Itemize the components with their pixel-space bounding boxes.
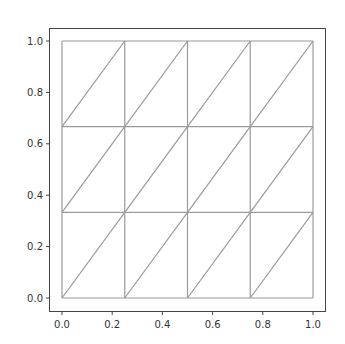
y-tick-label: 0.4: [27, 190, 43, 201]
y-axis-ticks: 0.00.20.40.60.81.0: [27, 36, 49, 304]
mesh-edge-diagonal: [250, 41, 313, 127]
y-tick-label: 0.6: [27, 138, 43, 149]
triangle-mesh: [62, 41, 313, 298]
mesh-edge-diagonal: [125, 127, 188, 213]
y-tick-label: 0.8: [27, 87, 43, 98]
x-tick-label: 0.8: [255, 319, 271, 330]
mesh-edge-diagonal: [188, 41, 251, 127]
x-tick-label: 0.6: [205, 319, 221, 330]
x-tick-label: 1.0: [305, 319, 321, 330]
y-tick-label: 1.0: [27, 36, 43, 47]
mesh-edge-diagonal: [125, 212, 188, 298]
mesh-plot: 0.00.20.40.60.81.0 0.00.20.40.60.81.0: [0, 0, 345, 344]
x-tick-label: 0.2: [104, 319, 120, 330]
mesh-edge-diagonal: [250, 212, 313, 298]
x-tick-label: 0.4: [154, 319, 170, 330]
mesh-edge-diagonal: [62, 41, 125, 127]
mesh-edge-diagonal: [250, 127, 313, 213]
x-tick-label: 0.0: [54, 319, 70, 330]
mesh-edge-diagonal: [125, 41, 188, 127]
mesh-edge-diagonal: [62, 127, 125, 213]
mesh-edge-diagonal: [188, 212, 251, 298]
mesh-edge-diagonal: [62, 212, 125, 298]
mesh-edge-diagonal: [188, 127, 251, 213]
y-tick-label: 0.0: [27, 293, 43, 304]
x-axis-ticks: 0.00.20.40.60.81.0: [54, 312, 321, 331]
y-tick-label: 0.2: [27, 241, 43, 252]
